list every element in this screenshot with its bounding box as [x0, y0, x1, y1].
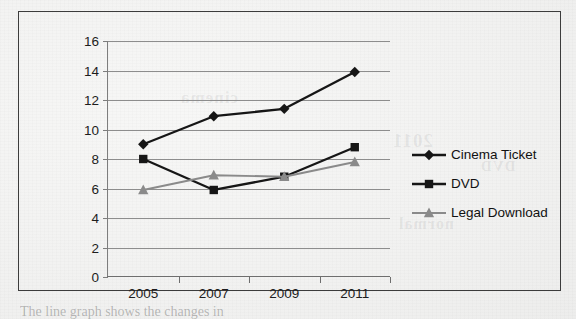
y-axis-tick-label: 10 [84, 122, 99, 137]
chart-legend: Cinema TicketDVDLegal Download [411, 140, 561, 227]
y-axis-tick-label: 2 [91, 240, 99, 255]
data-point-marker [425, 179, 433, 187]
x-axis-tick-label: 2011 [340, 286, 369, 301]
data-point-marker [350, 67, 360, 77]
y-axis-tick-label: 14 [84, 63, 99, 78]
data-point-marker [138, 139, 148, 149]
data-point-marker [424, 149, 434, 159]
x-tick-mark [320, 277, 321, 283]
data-point-marker [209, 111, 219, 121]
series-cinema-ticket [138, 67, 360, 150]
legend-item-label: DVD [451, 176, 480, 191]
x-tick-mark [179, 277, 180, 283]
data-point-marker [279, 104, 289, 114]
y-axis-tick-label: 8 [91, 152, 99, 167]
caption-strip: The line graph shows the changes in [20, 304, 350, 319]
x-axis-tick-label: 2007 [199, 286, 229, 301]
plot-area: 0246810121416 2005200720092011 [108, 41, 390, 277]
square-marker-icon [411, 177, 447, 191]
x-tick-mark [249, 277, 250, 283]
series-legal-download [138, 157, 360, 195]
y-axis-tick-label: 16 [84, 34, 99, 49]
data-point-marker [210, 186, 218, 194]
y-tick-mark [103, 277, 108, 278]
diamond-marker-icon [411, 148, 447, 162]
legend-item-dvd[interactable]: DVD [411, 169, 561, 198]
data-point-marker [350, 157, 360, 167]
series-line [143, 72, 355, 144]
chart-frame: 0246810121416 2005200720092011 Cinema Ti… [18, 11, 561, 291]
legend-item-cinema-ticket[interactable]: Cinema Ticket [411, 140, 561, 169]
y-axis-tick-label: 12 [84, 93, 99, 108]
legend-item-label: Legal Download [451, 205, 548, 220]
x-axis-tick-label: 2005 [128, 286, 158, 301]
data-point-marker [351, 143, 359, 151]
series-layer [108, 41, 390, 277]
x-axis-tick-label: 2009 [269, 286, 299, 301]
legend-item-label: Cinema Ticket [451, 147, 537, 162]
x-tick-mark [390, 277, 391, 283]
y-axis-tick-label: 6 [91, 181, 99, 196]
data-point-marker [139, 155, 147, 163]
series-line [143, 162, 355, 190]
caption-text: The line graph shows the changes in [20, 304, 350, 319]
triangle-marker-icon [411, 206, 447, 220]
y-axis-tick-label: 4 [91, 211, 99, 226]
legend-item-legal-download[interactable]: Legal Download [411, 198, 561, 227]
y-axis-tick-label: 0 [91, 270, 99, 285]
